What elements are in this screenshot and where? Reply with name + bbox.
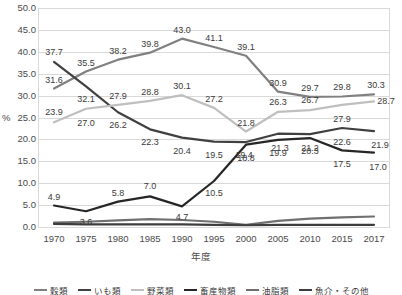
data-label: 26.2 (109, 121, 127, 130)
legend-swatch (184, 289, 197, 291)
data-label: 30.1 (173, 82, 191, 91)
legend-item[interactable]: 野菜類 (131, 284, 174, 295)
legend-item[interactable]: 畜産物類 (184, 284, 236, 295)
data-label: 27.9 (109, 92, 127, 101)
data-label: 38.2 (109, 47, 127, 56)
data-label: 39.1 (237, 43, 255, 52)
series-line (54, 224, 374, 225)
data-label: 18.8 (237, 154, 255, 163)
data-label: 30.3 (367, 81, 385, 90)
data-label: 28.8 (141, 88, 159, 97)
data-label: 41.1 (205, 34, 223, 43)
data-label: 37.7 (45, 48, 63, 57)
data-label: 10.5 (205, 189, 223, 198)
legend-label: 穀類 (50, 284, 68, 295)
data-label: 29.7 (301, 84, 319, 93)
data-label: 17.0 (369, 163, 387, 172)
data-label: 20.4 (173, 147, 191, 156)
legend-item[interactable]: 油脂類 (246, 284, 289, 295)
legend-item[interactable]: 穀類 (34, 284, 68, 295)
data-label: 32.1 (77, 95, 95, 104)
legend-item[interactable]: いも類 (78, 284, 121, 295)
data-label: 19.9 (269, 149, 287, 158)
data-label: 7.0 (144, 182, 157, 191)
data-label: 31.6 (45, 76, 63, 85)
data-label: 27.9 (333, 115, 351, 124)
data-label: 4.9 (48, 193, 61, 202)
data-label: 30.9 (269, 79, 287, 88)
legend-label: いも類 (94, 284, 121, 295)
y-axis-title: % (2, 113, 10, 123)
data-label: 28.7 (377, 97, 395, 106)
data-label: 5.8 (112, 189, 125, 198)
legend-swatch (246, 289, 259, 291)
data-label: 26.3 (269, 98, 287, 107)
data-label: 19.5 (205, 151, 223, 160)
chart-legend: 穀類いも類野菜類畜産物類油脂類魚介・その他 (0, 284, 402, 295)
x-axis-title: 年度 (0, 249, 402, 263)
data-label: 29.8 (333, 83, 351, 92)
data-label: 26.7 (301, 96, 319, 105)
legend-label: 畜産物類 (200, 284, 236, 295)
data-label: 20.3 (301, 147, 319, 156)
data-label: 23.9 (45, 108, 63, 117)
data-label: 21.9 (371, 141, 389, 150)
line-chart: 0.05.010.015.020.025.030.035.040.045.050… (0, 0, 402, 295)
data-label: 27.2 (205, 95, 223, 104)
data-label: 43.0 (173, 26, 191, 35)
data-label: 27.0 (77, 119, 95, 128)
legend-swatch (34, 289, 47, 291)
data-label: 35.5 (77, 59, 95, 68)
legend-label: 魚介・その他 (315, 284, 369, 295)
data-label: 22.6 (333, 138, 351, 147)
data-label: 17.5 (333, 160, 351, 169)
legend-label: 油脂類 (262, 284, 289, 295)
data-label: 39.8 (141, 40, 159, 49)
data-label: 22.3 (141, 138, 159, 147)
legend-item[interactable]: 魚介・その他 (299, 284, 369, 295)
legend-swatch (78, 289, 91, 291)
legend-swatch (299, 289, 312, 291)
data-label: 4.7 (176, 213, 189, 222)
legend-swatch (131, 289, 144, 291)
series-line (54, 39, 374, 97)
legend-label: 野菜類 (147, 284, 174, 295)
data-label: 3.6 (80, 218, 93, 227)
data-label: 21.8 (237, 119, 255, 128)
